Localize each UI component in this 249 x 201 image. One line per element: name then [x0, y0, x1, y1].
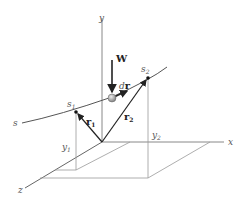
y-axis-label: y [98, 13, 105, 23]
point-s1 [74, 110, 78, 114]
s2-label: s2 [141, 64, 150, 75]
particle [108, 94, 116, 102]
y1-label: y1 [61, 142, 71, 153]
s2-projection-diag [148, 142, 210, 178]
y2-label: y2 [151, 130, 161, 141]
s1-label: s1 [67, 99, 75, 110]
path-curve [22, 67, 167, 123]
point-s2 [146, 76, 150, 80]
s1-projection-diag [76, 142, 130, 170]
z-axis-label: z [17, 185, 23, 195]
path-label: s [13, 118, 18, 128]
dr-label: dr [119, 80, 131, 91]
r2-label: r2 [124, 111, 133, 123]
x-axis-label: x [228, 137, 233, 147]
dr-vector [114, 91, 127, 97]
r1-label: r1 [86, 116, 95, 128]
weight-label: W [115, 53, 128, 64]
work-weight-diagram: y x z s s1 s2 W dr r1 r2 y1 y2 [0, 0, 249, 201]
